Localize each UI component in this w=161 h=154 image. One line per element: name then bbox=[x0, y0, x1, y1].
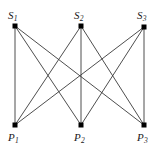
node-label-base: S bbox=[8, 9, 14, 21]
node-label-subscript: 2 bbox=[81, 136, 85, 145]
node-label-p2: P2 bbox=[74, 132, 84, 143]
node-label-base: P bbox=[74, 131, 81, 143]
graph-node-s1[interactable] bbox=[13, 24, 18, 29]
node-label-s3: S3 bbox=[137, 10, 146, 21]
node-label-s1: S1 bbox=[8, 10, 17, 21]
graph-node-s3[interactable] bbox=[142, 25, 147, 30]
graph-node-s2[interactable] bbox=[79, 24, 84, 29]
edges-group bbox=[15, 26, 144, 125]
node-label-p3: P3 bbox=[137, 132, 147, 143]
graph-node-p3[interactable] bbox=[142, 123, 147, 128]
node-label-base: S bbox=[137, 9, 143, 21]
node-label-subscript: 1 bbox=[14, 14, 18, 23]
node-label-p1: P1 bbox=[8, 132, 18, 143]
graph-node-p2[interactable] bbox=[79, 123, 84, 128]
graph-node-p1[interactable] bbox=[13, 123, 18, 128]
node-label-subscript: 1 bbox=[15, 136, 19, 145]
node-label-subscript: 3 bbox=[143, 14, 147, 23]
bipartite-graph-figure: S1S2S3P1P2P3 bbox=[0, 0, 161, 154]
node-label-s2: S2 bbox=[74, 10, 83, 21]
node-label-base: S bbox=[74, 9, 80, 21]
node-label-base: P bbox=[137, 131, 144, 143]
node-label-base: P bbox=[8, 131, 15, 143]
node-label-subscript: 2 bbox=[80, 14, 84, 23]
node-label-subscript: 3 bbox=[144, 136, 148, 145]
